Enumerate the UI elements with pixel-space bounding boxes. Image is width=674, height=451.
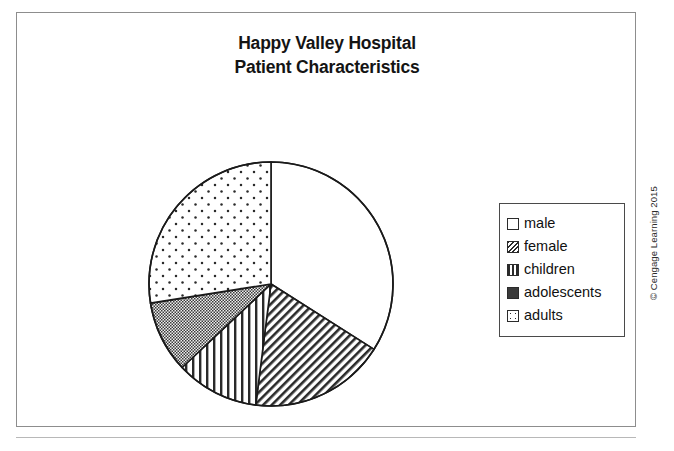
legend-swatch-children [507,264,519,276]
page-bottom-rule [16,437,636,438]
legend-label-male: male [524,216,555,231]
legend-item-children[interactable]: children [507,258,617,281]
legend-item-adolescents[interactable]: adolescents [507,281,617,304]
legend-item-adults[interactable]: adults [507,304,617,327]
legend-label-female: female [524,239,568,254]
legend-item-male[interactable]: male [507,212,617,235]
copyright-credit: © Cengage Learning 2015 [648,186,659,300]
legend-swatch-adolescents [507,287,519,299]
legend-swatch-female [507,241,519,253]
legend-label-children: children [524,262,575,277]
legend-label-adults: adults [524,308,563,323]
legend-swatch-male [507,218,519,230]
legend-box: male female children adolescents adults [499,203,625,337]
legend-swatch-adults [507,310,519,322]
legend-label-adolescents: adolescents [524,285,601,300]
figure-frame: Happy Valley Hospital Patient Characteri… [16,12,636,427]
pie-slice-adults[interactable] [149,162,271,303]
legend-item-female[interactable]: female [507,235,617,258]
pie-slices [149,162,393,406]
